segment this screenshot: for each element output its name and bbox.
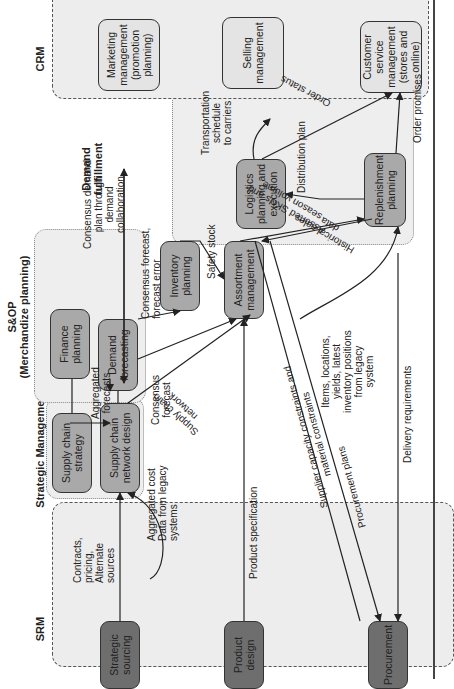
label-items-locations: Items, locations, yields, latest invento… (320, 330, 375, 413)
label-aggregated-forecasts: Aggregated forecasts (90, 367, 112, 419)
label-consensus-demand-plan: Consensus demand plan through demand col… (82, 160, 126, 249)
arrow-order-promises (396, 93, 400, 153)
label-safety-stock: Safety stock (206, 225, 217, 279)
arrow-procurement-plans (270, 241, 380, 621)
arrow-consensus-forecast (138, 319, 236, 359)
label-order-promises: Order promises (412, 74, 423, 143)
arrow-network-to-assortment (128, 315, 250, 403)
label-contracts: Contracts, pricing, Alternate sources (72, 537, 116, 583)
arrow-safety-stock (180, 241, 224, 279)
page-edge-rule (433, 0, 435, 679)
label-consensus-forecast-error: Consensus forecast, forecast error (140, 228, 162, 319)
arrow-transportation (253, 119, 270, 159)
label-distribution-plan: Distribution plan (296, 121, 307, 193)
label-delivery-requirements: Delivery requirements (402, 366, 413, 463)
label-transportation-schedule: Transportation schedule to carriers (200, 91, 233, 155)
label-product-specification: Product specification (248, 487, 259, 579)
label-aggregated-cost: Aggregated cost Data from legacy systems (146, 465, 179, 541)
